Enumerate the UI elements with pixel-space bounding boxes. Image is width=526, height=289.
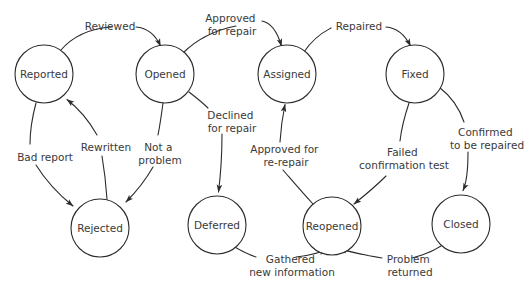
edge-repaired-head [386,27,411,46]
state-node-rejected[interactable]: Rejected [71,199,129,257]
edge-approved-for-re-repair-head [280,105,285,143]
edge-label-bad-report: Bad report [17,151,73,163]
edge-not-a-problem [158,103,163,135]
edge-confirmed-to-be-repaired [439,87,464,122]
edge-label-repaired: Repaired [336,20,383,32]
diagram-canvas: Reported Opened Assigned Fixed Rejected … [0,0,526,289]
edge-label-gathered-new-information: Gathered new information [249,253,335,278]
state-node-closed[interactable]: Closed [432,195,490,253]
edge-label-failed-confirmation-test: Failed confirmation test [359,146,449,171]
state-label-opened: Opened [144,68,185,80]
edge-approved-for-re-repair [283,170,313,204]
edge-label-not-a-problem: Not a problem [138,141,181,166]
edge-label-approved-for-re-repair: Approved for re-repair [250,143,321,168]
edge-label-approved-for-repair: Approved for repair [205,12,259,37]
edge-label-rewritten: Rewritten [81,141,131,153]
edge-approved-for-repair-head [262,21,282,46]
state-node-opened[interactable]: Opened [136,45,194,103]
edge-repaired [304,28,331,52]
edge-gathered-new-information [233,246,256,257]
state-node-reported[interactable]: Reported [15,45,73,103]
edge-not-a-problem-head [126,167,153,202]
edge-rewritten-head [67,100,97,136]
state-diagram: Reported Opened Assigned Fixed Rejected … [0,0,526,289]
edge-declined-for-repair-head [219,134,223,192]
edge-bad-report [30,103,36,144]
edge-label-declined-for-repair: Declined for repair [207,109,257,134]
edge-declined-for-repair [189,92,208,108]
edge-reviewed-head [136,27,161,46]
state-label-deferred: Deferred [194,219,240,231]
state-node-assigned[interactable]: Assigned [258,45,316,103]
state-node-fixed[interactable]: Fixed [386,45,444,103]
edge-label-confirmed-to-be-repaired: Confirmed to be repaired [450,126,524,151]
edge-failed-confirmation-test [400,103,409,141]
state-label-reported: Reported [20,68,68,80]
state-node-deferred[interactable]: Deferred [188,196,246,254]
edge-label-reviewed: Reviewed [85,20,136,32]
edge-bad-report-head [36,165,73,206]
state-label-rejected: Rejected [77,222,123,234]
edge-failed-confirmation-test-head [354,176,386,204]
state-node-reopened[interactable]: Reopened [303,197,361,255]
state-label-fixed: Fixed [401,68,428,80]
edge-rewritten [102,156,107,199]
edge-label-problem-returned: Problem returned [387,253,433,278]
state-label-assigned: Assigned [263,68,311,80]
state-label-reopened: Reopened [306,220,359,232]
state-label-closed: Closed [443,218,478,230]
edge-confirmed-to-be-repaired-head [463,152,468,191]
